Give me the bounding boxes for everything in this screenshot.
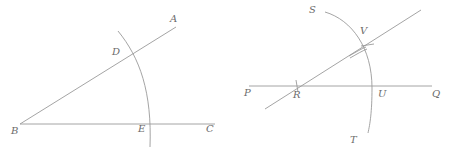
left-figure-group	[20, 27, 215, 147]
label-e: E	[138, 124, 145, 134]
label-d: D	[112, 47, 120, 57]
ray-ba	[20, 27, 176, 124]
label-p: P	[244, 88, 251, 98]
label-s: S	[309, 5, 316, 15]
label-q: Q	[432, 89, 440, 99]
right-figure-group	[249, 10, 432, 133]
arc-de	[118, 31, 150, 147]
label-b: B	[11, 126, 18, 136]
label-v: V	[360, 26, 367, 36]
geometry-vector-layer	[0, 0, 458, 153]
label-c: C	[206, 124, 214, 134]
geometry-figure-canvas: A B C D E S V P R U Q T	[0, 0, 458, 153]
label-a: A	[170, 14, 177, 24]
ray-through-r-v	[265, 10, 421, 109]
small-arc-at-v	[349, 47, 366, 56]
label-r: R	[293, 90, 301, 100]
label-t: T	[350, 135, 357, 145]
label-u: U	[378, 89, 386, 99]
